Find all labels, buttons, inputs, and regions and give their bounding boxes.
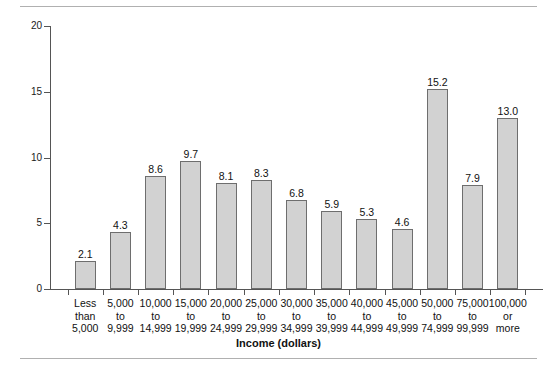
x-axis-line — [50, 289, 543, 290]
bar-value-label: 4.6 — [395, 216, 410, 228]
y-tick-label: 10 — [0, 151, 42, 164]
bar-value-label: 8.6 — [148, 163, 163, 175]
bar: 8.3 — [251, 180, 272, 289]
y-tick-label: 20 — [0, 19, 42, 32]
y-tick-label: 0 — [0, 282, 42, 295]
bar: 6.8 — [286, 200, 307, 289]
bar: 13.0 — [497, 118, 518, 289]
x-category-label-line: or — [480, 310, 536, 323]
x-tick-mark — [349, 290, 350, 295]
bar: 5.3 — [356, 219, 377, 289]
x-tick-mark — [208, 290, 209, 295]
bar: 8.6 — [145, 176, 166, 289]
bar-value-label: 6.8 — [289, 187, 304, 199]
bar-value-label: 15.2 — [427, 76, 447, 88]
x-tick-mark — [103, 290, 104, 295]
bar: 5.9 — [321, 211, 342, 289]
y-tick-label: 15 — [0, 85, 42, 98]
top-divider-rule — [20, 6, 537, 7]
bar-value-label: 5.9 — [324, 198, 339, 210]
x-tick-mark — [490, 290, 491, 295]
bar: 15.2 — [427, 89, 448, 289]
x-tick-mark — [525, 290, 526, 295]
x-tick-mark — [138, 290, 139, 295]
x-tick-mark — [279, 290, 280, 295]
x-tick-mark — [244, 290, 245, 295]
x-tick-mark — [385, 290, 386, 295]
bottom-divider-rule — [20, 358, 537, 359]
bar-value-label: 5.3 — [360, 206, 375, 218]
x-tick-mark — [455, 290, 456, 295]
bar-value-label: 13.0 — [498, 105, 518, 117]
x-tick-mark — [173, 290, 174, 295]
y-tick-label: 5 — [0, 216, 42, 229]
chart-figure: 05101520 2.14.38.69.78.18.36.85.95.34.61… — [0, 0, 557, 369]
bar-value-label: 9.7 — [184, 148, 199, 160]
x-axis-title: Income (dollars) — [0, 337, 557, 349]
x-tick-mark — [68, 290, 69, 295]
bar-value-label: 8.1 — [219, 170, 234, 182]
x-tick-mark — [420, 290, 421, 295]
x-category-label-line: 100,000 — [480, 297, 536, 310]
x-tick-mark — [314, 290, 315, 295]
bar-value-label: 8.3 — [254, 167, 269, 179]
y-tick-mark — [44, 289, 50, 290]
bar: 7.9 — [462, 185, 483, 289]
bar: 8.1 — [216, 183, 237, 290]
bar: 2.1 — [75, 261, 96, 289]
bar: 4.6 — [392, 229, 413, 289]
plot-area: 2.14.38.69.78.18.36.85.95.34.615.27.913.… — [50, 26, 543, 289]
bar-value-label: 2.1 — [78, 248, 93, 260]
bar: 4.3 — [110, 232, 131, 289]
bar-value-label: 7.9 — [465, 172, 480, 184]
bar: 9.7 — [180, 161, 201, 289]
x-category-label-line: more — [480, 322, 536, 335]
x-category-label: 100,000ormore — [480, 297, 536, 335]
bar-value-label: 4.3 — [113, 219, 128, 231]
